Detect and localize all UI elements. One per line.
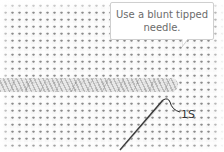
- tip-callout: Use a blunt tipped needle.: [110, 2, 214, 40]
- callout-pointer-icon: [182, 39, 192, 49]
- needlepoint-canvas: Use a blunt tipped needle. 1S: [0, 0, 224, 152]
- callout-line-2: needle.: [111, 21, 213, 34]
- callout-line-1: Use a blunt tipped: [111, 8, 213, 21]
- step-label: 1S: [181, 108, 195, 121]
